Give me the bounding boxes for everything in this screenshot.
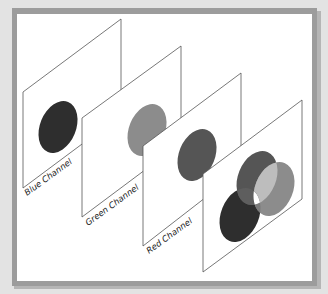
channel-diagram: Blue Channel Green Channel Red Channel — [0, 0, 328, 294]
